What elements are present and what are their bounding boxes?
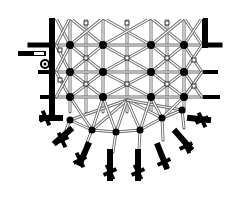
stair-newel	[44, 63, 47, 66]
vault-boss	[192, 58, 196, 62]
pier	[66, 93, 74, 101]
apse-pier	[67, 117, 74, 124]
pier	[147, 41, 155, 49]
vault-boss	[84, 56, 88, 60]
apse-pier	[179, 107, 186, 114]
top-cut	[55, 16, 203, 19]
vault-boss	[125, 56, 129, 60]
apse-pier	[113, 129, 120, 136]
pier	[66, 41, 74, 49]
vault-boss	[165, 82, 169, 86]
floor-plan	[0, 0, 228, 204]
vault-boss	[84, 82, 88, 86]
vault-boss	[84, 21, 88, 25]
vault-boss	[58, 78, 62, 82]
pier	[180, 41, 188, 49]
vault-boss	[125, 82, 129, 86]
apse-pier	[137, 127, 144, 134]
north-wall	[49, 18, 55, 118]
vault-boss	[58, 48, 62, 52]
vault-boss	[165, 21, 169, 25]
annex-opening	[34, 52, 44, 55]
pier	[66, 68, 74, 76]
pier	[99, 93, 107, 101]
pier	[147, 68, 155, 76]
pier	[180, 68, 188, 76]
pier	[147, 93, 155, 101]
apse-pier	[159, 115, 166, 122]
pier	[180, 93, 188, 101]
apse-pier	[89, 127, 96, 134]
pier	[99, 41, 107, 49]
vault-boss	[165, 56, 169, 60]
vault-rib-inner	[103, 97, 116, 132]
vault-boss	[125, 21, 129, 25]
pier	[99, 68, 107, 76]
vault-boss	[192, 84, 196, 88]
